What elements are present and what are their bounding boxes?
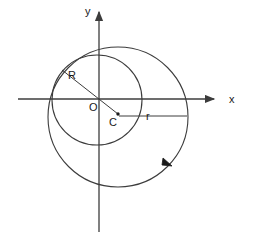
origin-label: O [89, 101, 98, 113]
center-c-label: C [109, 116, 117, 128]
radius-r-label: r [146, 110, 150, 122]
x-axis-label: x [229, 93, 235, 105]
small-circle [52, 55, 142, 145]
radius-R-label: R [68, 69, 76, 81]
large-circle [48, 47, 188, 187]
geometry-figure: x y O C R r [0, 0, 255, 239]
diagram-canvas: x y O C R r [0, 0, 255, 239]
y-axis-label: y [85, 5, 91, 17]
direction-arrow-icon [162, 158, 172, 166]
